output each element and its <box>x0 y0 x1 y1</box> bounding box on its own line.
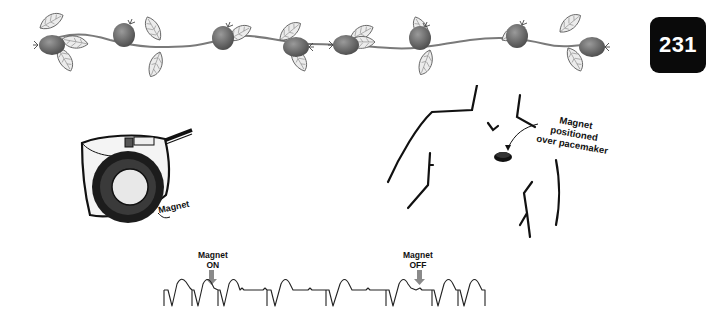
magnet-off-marker: Magnet OFF <box>403 250 433 270</box>
rosehip-berry-icon <box>39 23 605 57</box>
magnet-on-marker: Magnet ON <box>198 250 228 270</box>
magnet-on-line2: ON <box>198 260 228 270</box>
magnet-device-illustration <box>70 125 195 235</box>
ecg-strip <box>150 270 500 315</box>
chest-illustration <box>380 85 580 245</box>
page-number-badge: 231 <box>650 17 706 73</box>
magnet-off-line1: Magnet <box>403 250 433 260</box>
down-arrow-icon <box>206 270 425 285</box>
magnet-off-line2: OFF <box>403 260 433 270</box>
magnet-on-line1: Magnet <box>198 250 228 260</box>
rosehip-garland-decoration <box>0 0 620 85</box>
